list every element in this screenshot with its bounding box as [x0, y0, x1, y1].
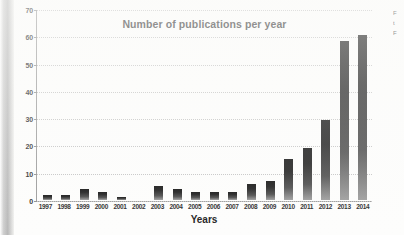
- bar: [210, 192, 219, 200]
- y-axis-tick-label: 20: [26, 143, 33, 150]
- plot-area: 010203040506070 Number of publications p…: [36, 10, 372, 202]
- y-axis-tick-mark: [34, 201, 37, 202]
- y-axis-tick-mark: [34, 92, 37, 93]
- bar-slot: [94, 10, 113, 200]
- bar: [173, 189, 182, 200]
- x-axis-tick-label: 1998: [55, 203, 74, 210]
- bar-chart: 010203040506070 Number of publications p…: [36, 10, 372, 202]
- x-axis-tick-label: 2008: [241, 203, 260, 210]
- bar-slot: [168, 10, 187, 200]
- bar-slot: [261, 10, 280, 200]
- y-axis-tick-label: 0: [29, 198, 33, 205]
- bar-slot: [205, 10, 224, 200]
- caption-line-2: t: [393, 18, 404, 28]
- y-axis-tick-mark: [34, 65, 37, 66]
- y-axis-tick-label: 70: [26, 7, 33, 14]
- x-axis-tick-label: 2003: [148, 203, 167, 210]
- bar-slot: [149, 10, 168, 200]
- bar-slot: [279, 10, 298, 200]
- bar: [284, 159, 293, 200]
- x-axis-tick-label: 2005: [185, 203, 204, 210]
- x-axis-tick-label: 2006: [204, 203, 223, 210]
- bar: [303, 148, 312, 200]
- caption-line-1: F: [393, 8, 404, 18]
- bar-slot: [316, 10, 335, 200]
- y-axis-tick-mark: [34, 174, 37, 175]
- y-axis-tick-mark: [34, 119, 37, 120]
- y-axis-tick-label: 30: [26, 116, 33, 123]
- bar-slot: [335, 10, 354, 200]
- bar: [340, 41, 349, 200]
- bar-series: [38, 10, 372, 200]
- x-axis-tick-label: 2011: [297, 203, 316, 210]
- x-axis-tick-label: 2012: [316, 203, 335, 210]
- bar-slot: [187, 10, 206, 200]
- bar-slot: [224, 10, 243, 200]
- x-axis-tick-label: 2007: [223, 203, 242, 210]
- x-axis-tick-label: 2010: [279, 203, 298, 210]
- x-axis-tick-label: 2013: [335, 203, 354, 210]
- clipped-caption-text: F t F: [393, 8, 404, 38]
- caption-line-3: F: [393, 28, 404, 38]
- page-edge-shadow: [0, 0, 14, 235]
- bar: [43, 195, 52, 200]
- bar: [247, 184, 256, 200]
- bar: [61, 195, 70, 200]
- x-axis-tick-label: 2000: [92, 203, 111, 210]
- x-axis-tick-label: 2004: [167, 203, 186, 210]
- y-axis-tick-label: 60: [26, 34, 33, 41]
- x-axis-tick-labels: 1997199819992000200120022003200420052006…: [36, 203, 372, 210]
- bar: [154, 186, 163, 200]
- y-axis-tick-label: 10: [26, 170, 33, 177]
- bar-slot: [298, 10, 317, 200]
- bar-slot: [112, 10, 131, 200]
- gridline: [37, 201, 372, 202]
- x-axis-title: Years: [36, 214, 372, 225]
- x-axis-tick-label: 2009: [260, 203, 279, 210]
- x-axis-tick-label: 2014: [353, 203, 372, 210]
- bar: [228, 192, 237, 200]
- x-axis-tick-label: 2002: [129, 203, 148, 210]
- bar: [98, 192, 107, 200]
- scanned-figure-page: 010203040506070 Number of publications p…: [0, 0, 404, 235]
- bar-slot: [38, 10, 57, 200]
- bar: [191, 192, 200, 200]
- bar-slot: [57, 10, 76, 200]
- bar-slot: [131, 10, 150, 200]
- bar: [358, 35, 367, 200]
- y-axis-tick-mark: [34, 146, 37, 147]
- bar-slot: [354, 10, 373, 200]
- bar: [321, 120, 330, 200]
- x-axis-tick-label: 1999: [73, 203, 92, 210]
- bar: [80, 189, 89, 200]
- bar-slot: [242, 10, 261, 200]
- y-axis-tick-mark: [34, 10, 37, 11]
- bar: [266, 181, 275, 200]
- x-axis-tick-label: 2001: [111, 203, 130, 210]
- bar-slot: [75, 10, 94, 200]
- y-axis-tick-label: 50: [26, 61, 33, 68]
- x-axis-tick-label: 1997: [36, 203, 55, 210]
- y-axis-tick-mark: [34, 37, 37, 38]
- bar: [117, 197, 126, 200]
- y-axis-tick-label: 40: [26, 88, 33, 95]
